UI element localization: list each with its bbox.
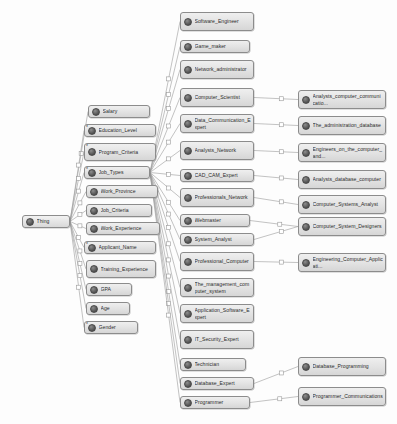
edge-thing-to-gpa bbox=[70, 222, 86, 290]
class-bullet-icon bbox=[184, 236, 192, 244]
class-node-label: Job_Criteria bbox=[101, 207, 150, 213]
edge-thing-to-program_criteria bbox=[70, 152, 84, 222]
class-node-label: Education_Level bbox=[99, 127, 154, 133]
class-node-software_engineer[interactable]: Software_Engineer bbox=[180, 12, 254, 31]
class-node-label: Work_Province bbox=[101, 188, 156, 194]
edge-job_types-to-programmer bbox=[150, 173, 180, 403]
class-bullet-icon bbox=[90, 305, 98, 313]
class-node-professional_computer[interactable]: Professional_Computer bbox=[180, 252, 254, 271]
class-node-age[interactable]: Age bbox=[86, 302, 130, 315]
class-bullet-icon bbox=[88, 244, 96, 252]
class-node-the_administration_database[interactable]: The_administration_database bbox=[298, 116, 386, 135]
edge-marker-icon bbox=[78, 262, 82, 266]
edge-marker-icon bbox=[167, 242, 171, 246]
class-bullet-icon bbox=[302, 176, 310, 184]
edge-marker-icon bbox=[278, 397, 282, 401]
class-node-technician[interactable]: Technician bbox=[180, 358, 246, 371]
class-node-the_management_computer_system[interactable]: The_management_computer_system bbox=[180, 278, 254, 297]
class-node-data_communication_expert[interactable]: Data_Communication_Expert bbox=[180, 114, 254, 133]
class-node-application_software_expert[interactable]: Application_Software_Expert bbox=[180, 304, 254, 323]
class-node-analysts_computer_communication[interactable]: Analysts_computer_communicatio... bbox=[298, 90, 386, 109]
edge-marker-icon bbox=[167, 290, 171, 294]
class-node-programmer[interactable]: Programmer bbox=[180, 396, 250, 409]
class-node-programmer_communications[interactable]: Programmer_Communications bbox=[298, 387, 386, 406]
class-node-database_expert[interactable]: Database_Expert bbox=[180, 377, 254, 390]
class-node-computer_system_designers[interactable]: Computer_System_Designers bbox=[298, 217, 386, 236]
class-node-computer_systems_analyst[interactable]: Computer_Systems_Analyst bbox=[298, 195, 386, 214]
edge-marker-icon bbox=[78, 249, 82, 253]
class-node-job_criteria[interactable]: Job_Criteria bbox=[86, 204, 152, 217]
class-node-label: Data_Communication_Expert bbox=[195, 117, 252, 129]
class-bullet-icon bbox=[184, 66, 192, 74]
edge-database_expert-to-database_programming bbox=[254, 367, 298, 384]
edge-marker-icon bbox=[167, 140, 171, 144]
asterisk-icon: * bbox=[86, 144, 88, 149]
class-node-work_province[interactable]: Work_Province bbox=[86, 185, 158, 198]
class-node-professionals_network[interactable]: Professionals_Network bbox=[180, 188, 254, 207]
class-bullet-icon bbox=[184, 310, 192, 318]
class-node-label: The_administration_database bbox=[313, 122, 384, 128]
class-node-game_maker[interactable]: Game_maker bbox=[180, 40, 250, 53]
class-node-cad_cam_expert[interactable]: CAD_CAM_Expert bbox=[180, 169, 254, 182]
class-bullet-icon bbox=[184, 194, 192, 202]
class-node-label: Training_Experience bbox=[101, 266, 154, 272]
class-node-engineers_on_the_computer_and[interactable]: Engineers_on_the_computer_and... bbox=[298, 143, 386, 162]
class-bullet-icon bbox=[26, 218, 34, 226]
class-node-network_administrator[interactable]: Network_administrator bbox=[180, 60, 254, 79]
class-bullet-icon bbox=[90, 286, 98, 294]
edge-marker-icon bbox=[78, 224, 82, 228]
edge-system_analyst-to-computer_system_designers bbox=[254, 227, 298, 240]
class-node-salary[interactable]: Salary bbox=[88, 105, 150, 118]
edge-thing-to-gender bbox=[70, 222, 84, 328]
class-bullet-icon bbox=[184, 284, 192, 292]
edge-webmaster-to-computer_system_designers bbox=[250, 221, 298, 227]
edge-marker-icon bbox=[279, 123, 283, 127]
class-node-it_security_expert[interactable]: IT_Security_Expert bbox=[180, 330, 254, 349]
class-bullet-icon bbox=[184, 94, 192, 102]
class-node-label: Database_Expert bbox=[195, 380, 252, 386]
class-node-engineering_computer_application[interactable]: Engineering_Computer_Applicati... bbox=[298, 253, 386, 272]
edge-thing-to-age bbox=[70, 222, 86, 309]
class-node-education_level[interactable]: *Education_Level bbox=[84, 124, 156, 137]
class-node-system_analyst[interactable]: System_Analyst bbox=[180, 233, 254, 246]
edge-marker-icon bbox=[77, 176, 81, 180]
class-node-label: Salary bbox=[103, 108, 148, 114]
class-node-analysts_database_computer[interactable]: Analysts_database_computer bbox=[298, 170, 386, 189]
class-node-training_experience[interactable]: Training_Experience bbox=[86, 260, 156, 278]
edge-marker-icon bbox=[167, 313, 171, 317]
class-node-program_criteria[interactable]: *Program_Criteria bbox=[84, 143, 156, 161]
class-node-webmaster[interactable]: Webmaster bbox=[180, 214, 250, 227]
edge-marker-icon bbox=[77, 163, 81, 167]
class-node-work_experience[interactable]: Work_Experience bbox=[86, 222, 160, 235]
class-node-thing[interactable]: Thing bbox=[22, 215, 70, 228]
class-bullet-icon bbox=[184, 43, 192, 51]
class-bullet-icon bbox=[184, 217, 192, 225]
class-bullet-icon bbox=[302, 393, 310, 401]
edge-thing-to-applicant_name bbox=[70, 222, 84, 248]
class-node-label: Gender bbox=[99, 324, 136, 330]
class-node-gpa[interactable]: GPA bbox=[86, 283, 132, 296]
class-node-label: Network_administrator bbox=[195, 66, 252, 72]
class-node-applicant_name[interactable]: *Applicant_Name bbox=[84, 241, 156, 254]
class-bullet-icon bbox=[92, 108, 100, 116]
class-bullet-icon bbox=[90, 225, 98, 233]
class-node-database_programming[interactable]: Database_Programming bbox=[298, 357, 386, 376]
edge-marker-icon bbox=[167, 186, 171, 190]
class-node-gender[interactable]: *Gender bbox=[84, 321, 138, 334]
edge-thing-to-work_experience bbox=[70, 222, 86, 229]
class-node-label: Engineers_on_the_computer_and... bbox=[313, 146, 384, 158]
class-node-label: Computer_System_Designers bbox=[313, 223, 384, 229]
class-bullet-icon bbox=[302, 201, 310, 209]
class-node-analysts_network[interactable]: Analysts_Network bbox=[180, 141, 254, 160]
asterisk-icon: * bbox=[86, 322, 88, 327]
class-node-job_types[interactable]: *Job_Types bbox=[84, 166, 150, 179]
edge-marker-icon bbox=[77, 236, 81, 240]
class-bullet-icon bbox=[184, 336, 192, 344]
class-bullet-icon bbox=[302, 223, 310, 231]
edge-marker-icon bbox=[167, 200, 171, 204]
class-node-computer_scientist[interactable]: Computer_Scientist bbox=[180, 88, 254, 107]
class-node-label: Work_Experience bbox=[101, 225, 158, 231]
edge-marker-icon bbox=[78, 273, 82, 277]
edge-computer_scientist-to-analysts_computer_communication bbox=[254, 97, 298, 101]
class-node-label: The_management_computer_system bbox=[195, 281, 252, 293]
